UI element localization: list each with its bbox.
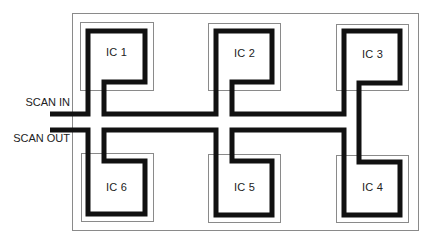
- ic6-label: IC 6: [106, 181, 127, 193]
- ic1-label: IC 1: [106, 46, 127, 58]
- ic2-label: IC 2: [234, 47, 255, 59]
- scan-in-label: SCAN IN: [25, 96, 70, 108]
- ic4-label: IC 4: [362, 181, 383, 193]
- ic5-label: IC 5: [234, 181, 255, 193]
- ic3-label: IC 3: [362, 48, 383, 60]
- scan-chain-diagram: [0, 0, 431, 243]
- scan-out-label: SCAN OUT: [13, 132, 70, 144]
- scan-trace-top: [50, 31, 400, 215]
